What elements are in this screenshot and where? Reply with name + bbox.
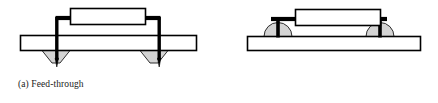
- circuit-board: [21, 36, 197, 51]
- surface-mount-drawing: [219, 0, 438, 103]
- circuit-board: [248, 37, 421, 51]
- caption-feed-through: (a) Feed-through: [18, 78, 84, 90]
- diagram-panel-feed-through: (a) Feed-through: [0, 0, 219, 103]
- figure-container: (a) Feed-through (b) Surface mount: [0, 0, 438, 103]
- component-body: [296, 10, 381, 26]
- component-body: [71, 9, 146, 25]
- diagram-panel-surface-mount: (b) Surface mount: [219, 0, 438, 103]
- solder-fillet-right: [140, 51, 168, 64]
